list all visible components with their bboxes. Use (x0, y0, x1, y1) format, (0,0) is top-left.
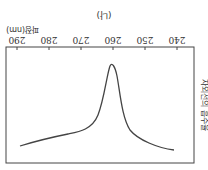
plot-frame (6, 47, 194, 163)
y-axis-label: 자외선의 흡수율 (200, 79, 208, 131)
chart-rotated: (나) 240 250 260 270 280 290 파장(nm) 자외선의 … (0, 0, 208, 170)
chart-svg: (나) 240 250 260 270 280 290 파장(nm) 자외선의 … (0, 0, 208, 170)
x-tick-260: 260 (104, 35, 121, 45)
x-tick-250: 250 (136, 35, 153, 45)
x-tick-290: 290 (8, 35, 25, 45)
chart-title: (나) (96, 10, 111, 20)
x-tick-280: 280 (40, 35, 57, 45)
absorption-curve (20, 64, 174, 150)
x-axis-label: 파장(nm) (6, 25, 39, 35)
x-tick-270: 270 (72, 35, 89, 45)
x-tick-240: 240 (168, 35, 185, 45)
